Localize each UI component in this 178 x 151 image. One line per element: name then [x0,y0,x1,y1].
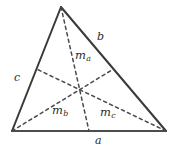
median-a-base: m [75,48,86,62]
side-label-c: c [14,72,20,83]
triangle-diagram-canvas [0,0,178,151]
median-label-m-a: ma [75,50,91,63]
median-lines [12,7,166,131]
median-c-subscript: c [111,111,115,120]
median-b-line [12,69,114,131]
median-label-m-c: mc [100,107,116,120]
triangle-outline [12,7,166,131]
median-b-base: m [52,103,63,117]
median-a-subscript: a [86,54,91,63]
median-c-line [37,69,167,131]
side-label-a: a [95,135,102,146]
median-b-subscript: b [63,109,68,118]
side-label-b: b [97,31,104,42]
median-c-base: m [100,105,111,119]
triangle-median-figure: b c a ma mb mc [0,0,178,151]
median-label-m-b: mb [52,105,68,118]
